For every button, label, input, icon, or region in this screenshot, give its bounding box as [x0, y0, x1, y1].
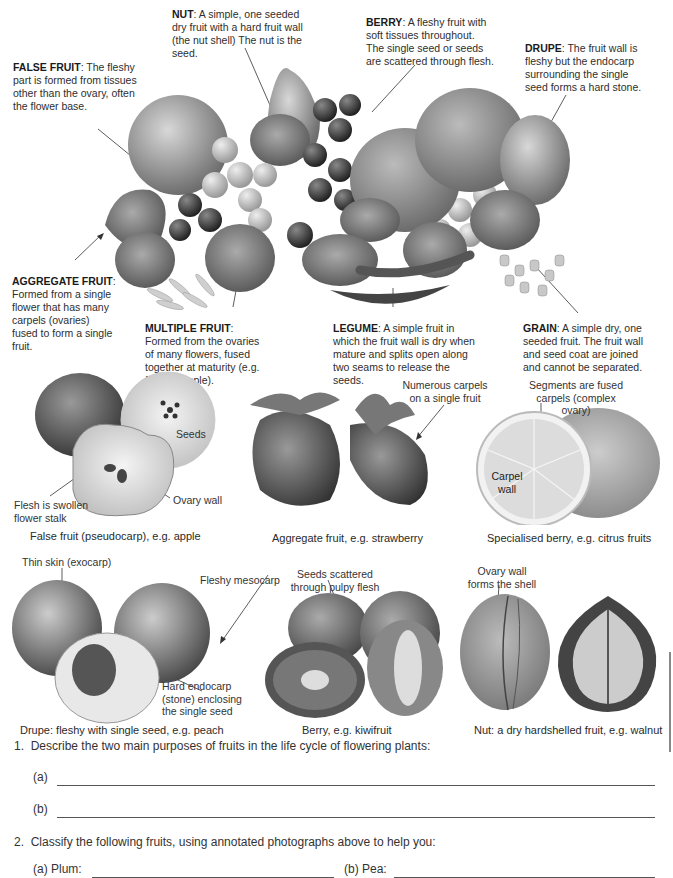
fruit-collage-illustration — [100, 60, 570, 310]
answer-1b-field[interactable] — [57, 817, 655, 818]
annotation-drupe: DRUPE: The fruit wall is fleshy but the … — [525, 42, 653, 94]
walnut-image — [250, 114, 310, 166]
caption-peach: Drupe: fleshy with single seed, e.g. pea… — [20, 724, 224, 736]
citrus-photo — [470, 405, 660, 525]
label-carpel-wall: Carpel wall — [487, 470, 527, 495]
question-2-text: Classify the following fruits, using ann… — [31, 835, 436, 849]
question-1: 1. Describe the two main purposes of fru… — [14, 739, 430, 753]
caption-strawberry: Aggregate fruit, e.g. strawberry — [272, 532, 423, 544]
label-ovary-wall: Ovary wall — [173, 494, 222, 507]
question-2-number: 2. — [14, 835, 24, 849]
annotation-berry: BERRY: A fleshy fruit with soft tissues … — [366, 16, 494, 68]
label-flesh-swollen: Flesh is swollen flower stalk — [14, 499, 94, 524]
annotation-aggregate-fruit: AGGREGATE FRUIT: Formed from a single fl… — [12, 275, 117, 353]
question-1b-label: (b) — [33, 802, 48, 816]
label-ovary-wall-shell: Ovary wall forms the shell — [467, 565, 537, 590]
question-2a-label: (a) Plum: — [33, 862, 82, 876]
question-1-text: Describe the two main purposes of fruits… — [31, 739, 431, 753]
annotation-grain: GRAIN: A simple dry, one seeded fruit. T… — [523, 322, 658, 374]
question-2b-label: (b) Pea: — [344, 862, 387, 876]
question-1-number: 1. — [14, 739, 24, 753]
answer-1a-field[interactable] — [57, 785, 655, 786]
question-2: 2. Classify the following fruits, using … — [14, 835, 436, 849]
caption-citrus: Specialised berry, e.g. citrus fruits — [487, 532, 651, 544]
pea-pod-image — [330, 285, 450, 304]
page-edge-rule — [669, 652, 671, 752]
annotation-nut: NUT: A simple, one seeded dry fruit with… — [172, 8, 314, 60]
kiwi-photo — [260, 588, 445, 718]
label-numerous-carpels: Numerous carpels on a single fruit — [397, 379, 493, 404]
annotation-false-fruit: FALSE FRUIT: The fleshy part is formed f… — [13, 61, 138, 113]
label-seeds: Seeds — [176, 428, 206, 441]
label-hard-endocarp: Hard endocarp (stone) enclosing the sing… — [162, 680, 242, 718]
label-fleshy-mesocarp: Fleshy mesocarp — [200, 574, 280, 587]
walnut-photo — [460, 594, 660, 714]
corn-kernels-image — [500, 255, 564, 296]
label-seeds-scattered: Seeds scattered through pulpy flesh — [290, 568, 380, 593]
annotation-legume: LEGUME: A simple fruit in which the frui… — [333, 322, 481, 387]
caption-kiwi: Berry, e.g. kiwifruit — [302, 724, 392, 736]
caption-apple: False fruit (pseudocarp), e.g. apple — [30, 530, 201, 542]
label-segments-fused: Segments are fused carpels (complex ovar… — [522, 379, 630, 417]
caption-walnut: Nut: a dry hardshelled fruit, e.g. walnu… — [474, 724, 662, 736]
label-thin-skin: Thin skin (exocarp) — [22, 556, 111, 569]
question-1a-label: (a) — [33, 770, 48, 784]
